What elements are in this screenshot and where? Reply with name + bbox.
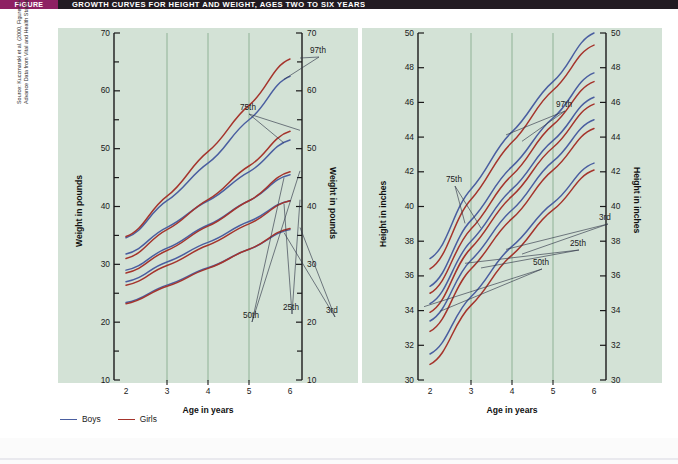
x-tick-label: 2: [114, 387, 138, 395]
y-tick-label-right: 10: [307, 376, 337, 384]
y-tick-label-right: 44: [611, 133, 641, 141]
percentile-label-50th: 50th: [533, 258, 549, 267]
y-tick-label-right: 50: [611, 29, 641, 37]
y-tick-label-left: 50: [80, 144, 110, 152]
percentile-label-3rd: 3rd: [326, 306, 338, 315]
x-tick-label: 3: [155, 387, 179, 395]
weight-chart-panel: 101020203030404050506060707023456Weight …: [58, 28, 358, 428]
y-tick-label-right: 70: [307, 29, 337, 37]
height-plot-svg: [362, 28, 662, 428]
y-tick-label-right: 32: [611, 341, 641, 349]
y-tick-label-left: 60: [80, 86, 110, 94]
y-tick-label-right: 46: [611, 98, 641, 106]
source-credit: Source: Kuczmarski et al. (2000, Figures…: [16, 0, 46, 104]
legend-label-boys: Boys: [82, 415, 101, 424]
percentile-label-75th: 75th: [240, 103, 256, 112]
y-axis-title-right: Height in inches: [632, 167, 642, 233]
y-tick-label-right: 60: [307, 86, 337, 94]
y-tick-label-left: 48: [384, 63, 414, 71]
y-tick-label-right: 36: [611, 271, 641, 279]
y-tick-label-left: 32: [384, 341, 414, 349]
percentile-label-97th: 97th: [556, 100, 572, 109]
y-tick-label-left: 42: [384, 167, 414, 175]
percentile-label-50th: 50th: [243, 311, 259, 320]
y-tick-label-left: 70: [80, 29, 110, 37]
y-tick-label-left: 20: [80, 318, 110, 326]
y-tick-label-left: 30: [80, 260, 110, 268]
legend-item-boys: Boys: [60, 415, 101, 424]
x-tick-label: 2: [418, 387, 442, 395]
y-tick-label-right: 34: [611, 306, 641, 314]
percentile-label-97th: 97th: [310, 46, 326, 55]
y-tick-label-left: 44: [384, 133, 414, 141]
y-tick-label-right: 50: [307, 144, 337, 152]
y-tick-label-left: 40: [384, 202, 414, 210]
source-credit-line-1: Source: Kuczmarski et al. (2000, Figures…: [16, 0, 23, 104]
y-tick-label-right: 38: [611, 237, 641, 245]
y-axis-title-right: Weight in pounds: [328, 167, 338, 239]
y-tick-label-left: 46: [384, 98, 414, 106]
x-tick-label: 5: [541, 387, 565, 395]
legend-swatch-boys: [60, 419, 77, 421]
footer-strip: [0, 438, 678, 464]
percentile-label-25th: 25th: [283, 303, 299, 312]
y-axis-title-left: Weight in pounds: [74, 175, 84, 247]
x-tick-label: 6: [278, 387, 302, 395]
footer-rule: [0, 458, 678, 460]
weight-x-axis-title: Age in years: [58, 405, 358, 415]
figure-card: Source: Kuczmarski et al. (2000, Figures…: [0, 9, 678, 439]
chart-legend: Boys Girls: [60, 415, 157, 424]
y-axis-title-left: Height in inches: [378, 180, 388, 246]
percentile-label-3rd: 3rd: [599, 213, 611, 222]
x-tick-label: 5: [237, 387, 261, 395]
y-tick-label-right: 48: [611, 63, 641, 71]
height-x-axis-title: Age in years: [362, 405, 662, 415]
y-tick-label-left: 50: [384, 29, 414, 37]
y-tick-label-left: 36: [384, 271, 414, 279]
height-chart-panel: 3030323234343636383840404242444446464848…: [362, 28, 662, 428]
y-tick-label-left: 10: [80, 376, 110, 384]
x-tick-label: 6: [582, 387, 606, 395]
y-tick-label-left: 40: [80, 202, 110, 210]
y-tick-label-right: 20: [307, 318, 337, 326]
y-tick-label-left: 34: [384, 306, 414, 314]
source-credit-line-2: Advance Data from Vital and Health Stati…: [23, 0, 30, 104]
percentile-label-75th: 75th: [446, 175, 462, 184]
x-tick-label: 4: [500, 387, 524, 395]
x-tick-label: 3: [459, 387, 483, 395]
y-tick-label-left: 30: [384, 376, 414, 384]
percentile-label-25th: 25th: [570, 239, 586, 248]
y-tick-label-right: 30: [307, 260, 337, 268]
y-tick-label-right: 30: [611, 376, 641, 384]
legend-label-girls: Girls: [140, 415, 157, 424]
y-tick-label-left: 38: [384, 237, 414, 245]
x-tick-label: 4: [196, 387, 220, 395]
legend-swatch-girls: [118, 419, 135, 421]
figure-header-bar: FIGURE GROWTH CURVES FOR HEIGHT AND WEIG…: [0, 0, 678, 9]
figure-title: GROWTH CURVES FOR HEIGHT AND WEIGHT, AGE…: [58, 0, 365, 9]
legend-item-girls: Girls: [118, 415, 157, 424]
